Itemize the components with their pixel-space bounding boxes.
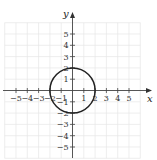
x-tick-label: −5 bbox=[10, 94, 22, 103]
y-tick-label: −5 bbox=[57, 143, 69, 152]
x-tick-label: −4 bbox=[21, 94, 33, 103]
ticks: −5−4−3−2−112345−5−4−3−2−112345 bbox=[10, 30, 131, 152]
y-tick-label: 1 bbox=[63, 75, 68, 84]
y-tick-label: −3 bbox=[57, 120, 69, 129]
x-tick-label: 3 bbox=[104, 94, 109, 103]
y-axis-label: y bbox=[62, 8, 69, 19]
x-axis-label: x bbox=[147, 93, 153, 104]
x-tick-label: 4 bbox=[115, 94, 120, 103]
y-tick-label: −1 bbox=[57, 98, 69, 107]
y-tick-label: 4 bbox=[63, 41, 68, 50]
x-tick-label: 5 bbox=[126, 94, 131, 103]
y-tick-label: −4 bbox=[57, 132, 69, 141]
x-tick-label: 1 bbox=[81, 94, 86, 103]
y-tick-label: 5 bbox=[63, 30, 68, 39]
y-tick-label: 3 bbox=[63, 53, 68, 62]
chart: −5−4−3−2−112345−5−4−3−2−112345 x y bbox=[0, 0, 157, 160]
y-axis-arrow-icon bbox=[70, 12, 75, 18]
x-tick-label: −3 bbox=[33, 94, 45, 103]
